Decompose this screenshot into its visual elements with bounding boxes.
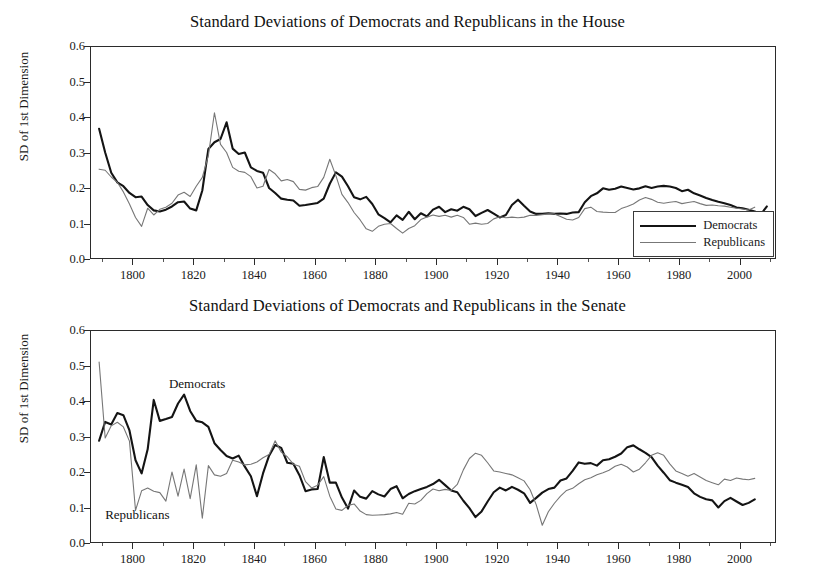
y-tick-mark	[84, 543, 90, 544]
x-tick-minor	[102, 543, 103, 546]
page-title-house: Standard Deviations of Democrats and Rep…	[0, 12, 815, 32]
y-tick-mark	[84, 366, 90, 367]
x-tick-minor	[224, 259, 225, 262]
x-tick-minor	[649, 259, 650, 262]
series-line-democrats	[99, 395, 755, 517]
series-layer	[90, 330, 776, 543]
y-tick-label: 0.5	[69, 358, 85, 373]
x-tick-mark	[557, 543, 558, 549]
x-tick-label: 1840	[241, 268, 266, 283]
x-tick-mark	[315, 259, 316, 265]
series-line-democrats	[99, 122, 767, 222]
plot-area-senate: Democrats Republicans 0.00.10.20.30.40.5…	[90, 330, 776, 543]
legend-label-democrats: Democrats	[703, 218, 757, 233]
x-tick-minor	[770, 259, 771, 262]
x-tick-mark	[436, 543, 437, 549]
y-axis-label-senate: SD of 1st Dimension	[16, 282, 34, 495]
y-tick-mark	[84, 117, 90, 118]
x-tick-mark	[740, 259, 741, 265]
y-tick-label: 0.4	[69, 394, 85, 409]
x-tick-mark	[193, 259, 194, 265]
x-tick-minor	[466, 543, 467, 546]
x-tick-minor	[709, 543, 710, 546]
page-title-senate: Standard Deviations of Democrats and Rep…	[0, 296, 815, 316]
x-tick-label: 1920	[484, 268, 509, 283]
y-tick-label: 0.0	[69, 536, 85, 551]
x-tick-minor	[770, 543, 771, 546]
x-tick-mark	[315, 543, 316, 549]
x-tick-minor	[649, 543, 650, 546]
y-tick-label: 0.6	[69, 39, 85, 54]
x-tick-label: 2000	[727, 552, 752, 564]
chart-panel-house: Standard Deviations of Democrats and Rep…	[0, 0, 815, 282]
x-tick-mark	[740, 543, 741, 549]
x-tick-label: 1940	[545, 552, 570, 564]
x-tick-mark	[254, 259, 255, 265]
y-tick-label: 0.2	[69, 465, 85, 480]
x-tick-minor	[163, 543, 164, 546]
y-tick-mark	[84, 472, 90, 473]
y-axis-label-house: SD of 1st Dimension	[16, 0, 34, 213]
x-tick-minor	[284, 543, 285, 546]
x-tick-label: 1800	[120, 552, 145, 564]
x-tick-minor	[527, 543, 528, 546]
x-tick-mark	[618, 259, 619, 265]
x-tick-label: 1960	[606, 268, 631, 283]
x-tick-label: 1900	[424, 268, 449, 283]
y-tick-label: 0.2	[69, 181, 85, 196]
y-tick-label: 0.0	[69, 252, 85, 267]
x-tick-minor	[709, 259, 710, 262]
x-tick-mark	[679, 259, 680, 265]
x-tick-minor	[284, 259, 285, 262]
legend-item-democrats: Democrats	[640, 217, 765, 234]
x-tick-minor	[163, 259, 164, 262]
x-tick-label: 1820	[181, 268, 206, 283]
x-tick-minor	[466, 259, 467, 262]
y-tick-mark	[84, 224, 90, 225]
x-tick-mark	[254, 543, 255, 549]
x-tick-minor	[588, 259, 589, 262]
y-tick-label: 0.1	[69, 216, 85, 231]
x-tick-label: 1880	[363, 268, 388, 283]
y-tick-label: 0.3	[69, 145, 85, 160]
x-tick-minor	[588, 543, 589, 546]
chart-panel-senate: Standard Deviations of Democrats and Rep…	[0, 282, 815, 564]
plot-area-house: Democrats Republicans 0.00.10.20.30.40.5…	[90, 46, 776, 259]
y-tick-mark	[84, 401, 90, 402]
x-tick-minor	[406, 259, 407, 262]
x-tick-minor	[102, 259, 103, 262]
legend-line-icon-republicans	[640, 242, 696, 243]
x-tick-mark	[679, 543, 680, 549]
x-tick-minor	[345, 543, 346, 546]
x-tick-minor	[527, 259, 528, 262]
x-tick-label: 1920	[484, 552, 509, 564]
y-tick-mark	[84, 188, 90, 189]
x-tick-minor	[345, 259, 346, 262]
legend-house: Democrats Republicans	[633, 211, 774, 257]
legend-line-icon-democrats	[640, 225, 696, 227]
x-tick-mark	[132, 259, 133, 265]
x-tick-label: 1800	[120, 268, 145, 283]
legend-item-republicans: Republicans	[640, 234, 765, 251]
x-tick-label: 1880	[363, 552, 388, 564]
y-tick-mark	[84, 330, 90, 331]
x-tick-mark	[497, 259, 498, 265]
y-tick-mark	[84, 82, 90, 83]
x-tick-mark	[618, 543, 619, 549]
x-tick-minor	[406, 543, 407, 546]
x-tick-mark	[497, 543, 498, 549]
x-tick-label: 1840	[241, 552, 266, 564]
y-tick-mark	[84, 437, 90, 438]
x-tick-label: 1860	[302, 268, 327, 283]
x-tick-label: 1820	[181, 552, 206, 564]
y-tick-label: 0.5	[69, 74, 85, 89]
x-tick-mark	[436, 259, 437, 265]
annotation-republicans: Republicans	[105, 507, 169, 523]
x-tick-mark	[193, 543, 194, 549]
annotation-democrats: Democrats	[169, 376, 225, 392]
y-tick-mark	[84, 46, 90, 47]
x-tick-label: 2000	[727, 268, 752, 283]
x-tick-label: 1940	[545, 268, 570, 283]
y-tick-label: 0.1	[69, 500, 85, 515]
legend-label-republicans: Republicans	[703, 235, 765, 250]
